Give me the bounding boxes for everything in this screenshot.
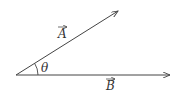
vector-a	[16, 11, 118, 75]
angle-arc	[35, 63, 38, 75]
svg-text:B: B	[105, 79, 115, 93]
vector-a-label: A	[57, 27, 67, 41]
svg-text:A: A	[57, 27, 67, 41]
angle-label: θ	[41, 61, 49, 75]
vector-b-label: B	[105, 79, 115, 93]
vector-diagram: A B θ	[0, 0, 178, 99]
